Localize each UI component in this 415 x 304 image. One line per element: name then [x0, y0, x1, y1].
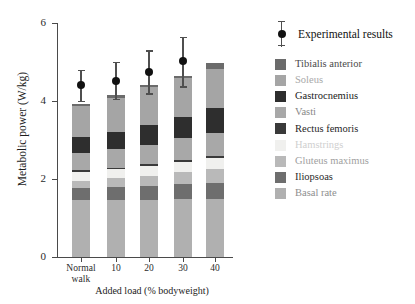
- bar-stack: [206, 23, 224, 257]
- error-bar-cap-bottom: [146, 93, 153, 94]
- bar-segment: [72, 104, 90, 106]
- y-tick-label: 4: [24, 95, 46, 106]
- legend-item[interactable]: Tibialis anterior: [275, 56, 415, 72]
- bar-segment: [206, 183, 224, 199]
- bar-segment: [206, 156, 224, 158]
- legend-item-label: Vasti: [295, 107, 316, 118]
- legend-item[interactable]: Rectus femoris: [275, 121, 415, 137]
- bar-segment: [206, 63, 224, 69]
- bar-segment: [206, 158, 224, 169]
- legend-header-label: Experimental results: [298, 28, 393, 40]
- x-tick-mark: [215, 258, 216, 262]
- y-tick-label: 2: [24, 173, 46, 184]
- bar-segment: [72, 170, 90, 172]
- error-bar-cap-top: [113, 62, 120, 63]
- x-axis-title: Added load (% bodyweight): [62, 285, 242, 296]
- bar-segment: [72, 181, 90, 189]
- bar-stack: [107, 23, 125, 257]
- x-tick-mark: [81, 258, 82, 262]
- bar-segment: [140, 164, 158, 166]
- bar-segment: [174, 199, 192, 258]
- legend-item[interactable]: Gastrocnemius: [275, 88, 415, 104]
- error-bar-cap-top: [146, 50, 153, 51]
- bar-segment: [206, 69, 224, 108]
- bar-segment: [107, 178, 125, 187]
- y-axis-title: Metabolic power (W/kg): [16, 34, 28, 224]
- error-bar-cap-bottom: [113, 99, 120, 100]
- x-tick-mark: [116, 258, 117, 262]
- legend-item[interactable]: Hamstrings: [275, 137, 415, 153]
- y-tick-label: 0: [24, 251, 46, 262]
- bar-segment: [206, 133, 224, 156]
- legend-item-label: Gastrocnemius: [295, 91, 358, 102]
- bar-segment: [206, 108, 224, 132]
- legend-item[interactable]: Vasti: [275, 105, 415, 121]
- bar-segment: [140, 145, 158, 165]
- legend-swatch: [275, 59, 286, 70]
- bar-segment: [107, 169, 125, 178]
- legend-swatch: [275, 140, 286, 151]
- y-tick-label: 6: [24, 17, 46, 28]
- legend-item-label: Basal rate: [295, 188, 337, 199]
- metabolic-power-chart: Metabolic power (W/kg) Added load (% bod…: [0, 0, 415, 304]
- bar-segment: [72, 137, 90, 153]
- bar-stack: [72, 23, 90, 257]
- error-bar-cap-top: [78, 70, 85, 71]
- legend-item-label: Soleus: [295, 75, 323, 86]
- x-axis-line: [57, 257, 233, 258]
- bar-segment: [174, 162, 192, 172]
- errorbar-dot-icon: [275, 20, 289, 48]
- bar-segment: [140, 166, 158, 176]
- bar-segment: [72, 172, 90, 181]
- legend-swatch: [275, 107, 286, 118]
- legend-swatch: [275, 188, 286, 199]
- bar-segment: [174, 117, 192, 139]
- bar-segment: [72, 200, 90, 257]
- bar-segment: [140, 125, 158, 145]
- experimental-marker-dot: [145, 68, 153, 76]
- experimental-marker-dot: [179, 57, 187, 65]
- error-bar-cap-bottom: [180, 86, 187, 87]
- x-tick-mark: [183, 258, 184, 262]
- bar-segment: [107, 149, 125, 167]
- plot-area: [57, 23, 233, 257]
- bar-segment: [174, 138, 192, 159]
- bar-segment: [140, 176, 158, 187]
- bar-segment: [206, 199, 224, 258]
- error-bar-cap-top: [180, 37, 187, 38]
- legend-item-label: Gluteus maximus: [295, 156, 369, 167]
- legend-item[interactable]: Gluteus maximus: [275, 153, 415, 169]
- bar-segment: [72, 106, 90, 137]
- bar-segment: [72, 188, 90, 199]
- bar-segment: [107, 132, 125, 150]
- legend-item-label: Iliopsoas: [295, 172, 333, 183]
- bar-segment: [174, 172, 192, 184]
- bar-segment: [72, 153, 90, 171]
- bar-segment: [107, 168, 125, 170]
- chart-legend: Experimental results Tibialis anteriorSo…: [275, 20, 415, 202]
- bar-segment: [140, 186, 158, 199]
- legend-item-label: Hamstrings: [295, 140, 343, 151]
- legend-item[interactable]: Soleus: [275, 72, 415, 88]
- legend-item-list: Tibialis anteriorSoleusGastrocnemiusVast…: [275, 56, 415, 202]
- bar-segment: [107, 200, 125, 257]
- legend-header-experimental: Experimental results: [275, 20, 415, 48]
- legend-swatch: [275, 172, 286, 183]
- bar-segment: [174, 184, 192, 198]
- bar-segment: [206, 169, 224, 183]
- x-tick-mark: [149, 258, 150, 262]
- legend-swatch: [275, 91, 286, 102]
- bar-segment: [107, 187, 125, 199]
- y-tick-mark: [52, 257, 57, 258]
- legend-item[interactable]: Basal rate: [275, 186, 415, 202]
- x-tick-label: 40: [192, 263, 238, 274]
- bar-segment: [174, 160, 192, 162]
- legend-item-label: Tibialis anterior: [295, 59, 362, 70]
- legend-item[interactable]: Iliopsoas: [275, 169, 415, 185]
- error-bar-cap-bottom: [78, 101, 85, 102]
- legend-swatch: [275, 156, 286, 167]
- legend-swatch: [275, 123, 286, 134]
- experimental-marker-dot: [112, 77, 120, 85]
- bar-segment: [107, 98, 125, 132]
- bar-segment: [140, 200, 158, 257]
